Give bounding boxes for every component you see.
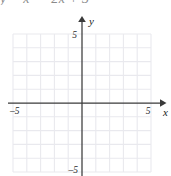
x-tick-label-pos5: 5 [146, 106, 151, 116]
y-tick-label-pos5: 5 [72, 30, 77, 40]
y-axis-label: y [88, 15, 94, 27]
x-tick-label-neg5: –5 [9, 106, 20, 116]
coordinate-plane: x y –5 5 5 –5 [0, 0, 171, 176]
y-axis [78, 16, 86, 176]
x-axis [8, 99, 167, 107]
x-axis-label: x [162, 106, 168, 118]
y-tick-label-neg5: –5 [68, 165, 79, 175]
graph-svg: x y –5 5 5 –5 [0, 0, 171, 176]
